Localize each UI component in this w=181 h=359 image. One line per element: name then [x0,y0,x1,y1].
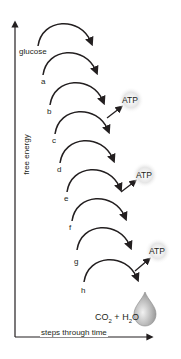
step-label-glucose: glucose [19,48,47,56]
step-label-e: e [64,195,68,203]
plus-sign: + [114,312,119,322]
products-label: CO2 + H2O [95,312,139,324]
step-label-b: b [47,108,51,116]
step-label-a: a [41,78,45,86]
step-label-h: h [81,287,85,295]
reaction-arcs [38,24,137,282]
y-axis-label: free energy [22,133,31,175]
step-label-f: f [69,224,71,232]
x-axis-label: steps through time [40,328,108,337]
atp-label-3: ATP [149,247,165,256]
co2-text: CO [95,312,109,322]
step-label-c: c [52,137,56,145]
atp-label-1: ATP [122,96,138,105]
step-label-g: g [74,258,78,266]
step-label-d: d [57,166,61,174]
atp-label-2: ATP [136,171,152,180]
co2-subscript: 2 [109,318,112,324]
h2o-o: O [132,312,139,322]
atp-arrows [107,108,148,271]
